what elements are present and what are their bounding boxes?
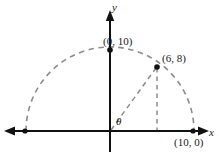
point-left-endpoint	[22, 128, 27, 133]
point-terminal	[154, 64, 160, 70]
x-axis-left-arrowhead	[4, 127, 15, 136]
point-label-right-endpoint: (10, 0)	[174, 137, 203, 148]
point-top	[107, 47, 113, 53]
point-right-endpoint	[190, 128, 195, 133]
coordinate-plane-drawing	[0, 0, 219, 157]
theta-angle-label: θ	[116, 116, 121, 127]
math-figure: y x (0, 10) (6, 8) (10, 0) θ	[0, 0, 219, 157]
point-label-top: (0, 10)	[103, 36, 132, 47]
y-axis-label: y	[112, 2, 117, 13]
x-axis-right-arrowhead	[198, 127, 209, 136]
x-axis-label: x	[209, 127, 214, 138]
point-label-terminal: (6, 8)	[162, 53, 186, 64]
